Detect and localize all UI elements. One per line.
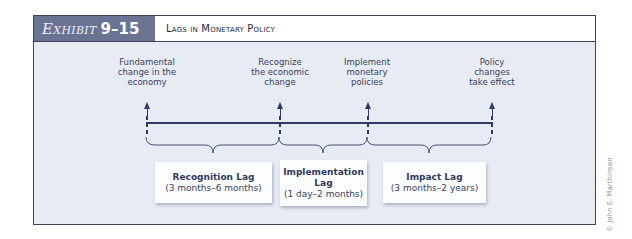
lag-name: Impact Lag (383, 172, 486, 183)
event-label-policy-takes-effect: Policy changes take effect (447, 57, 537, 87)
event-label-line: economy (102, 77, 192, 87)
event-label-line: Recognize (235, 57, 325, 67)
exhibit-title: Lags in Monetary Policy (166, 16, 275, 41)
tick-policy-takes-effect (491, 116, 493, 136)
impact-lag-box: Impact Lag (3 months–2 years) (383, 162, 486, 203)
event-label-recognize-change: Recognize the economic change (235, 57, 325, 87)
tick-fundamental-change (146, 116, 148, 136)
brace-icons (145, 136, 495, 156)
lag-name: Lag (280, 178, 367, 189)
event-label-line: Fundamental (102, 57, 192, 67)
event-label-line: change (235, 77, 325, 87)
exhibit-label: Exhibit9–15 (34, 16, 155, 41)
arrow-stem (280, 108, 282, 116)
tick-implement-policies (367, 116, 369, 136)
tick-recognize-change (279, 116, 281, 136)
event-label-line: take effect (447, 77, 537, 87)
event-label-fundamental-change: Fundamental change in the economy (102, 57, 192, 87)
event-label-line: changes (447, 67, 537, 77)
event-label-line: change in the (102, 67, 192, 77)
event-label-line: Implement (322, 57, 412, 67)
recognition-brace-icon (146, 137, 279, 153)
lag-range: (1 day–2 months) (280, 189, 367, 200)
exhibit-word: Exhibit (42, 20, 97, 38)
lag-name: Recognition Lag (155, 172, 272, 183)
event-label-line: policies (322, 77, 412, 87)
arrow-stem (368, 108, 370, 116)
event-label-line: monetary (322, 67, 412, 77)
lag-range: (3 months–2 years) (383, 183, 486, 194)
impact-brace-icon (367, 137, 491, 153)
copyright-credit: © John E. Marthinsen (606, 172, 614, 232)
recognition-lag-box: Recognition Lag (3 months–6 months) (155, 162, 272, 203)
event-label-implement-policies: Implement monetary policies (322, 57, 412, 87)
arrow-stem (492, 108, 494, 116)
lag-range: (3 months–6 months) (155, 183, 272, 194)
event-label-line: the economic (235, 67, 325, 77)
exhibit-header: Exhibit9–15 Lags in Monetary Policy (34, 16, 595, 42)
lag-name: Implementation (280, 167, 367, 178)
exhibit-number: 9–15 (101, 20, 140, 38)
event-label-line: Policy (447, 57, 537, 67)
arrow-stem (147, 108, 149, 116)
implementation-lag-box: Implementation Lag (1 day–2 months) (280, 160, 367, 206)
timeline-axis (146, 122, 493, 124)
implementation-brace-icon (279, 137, 367, 153)
